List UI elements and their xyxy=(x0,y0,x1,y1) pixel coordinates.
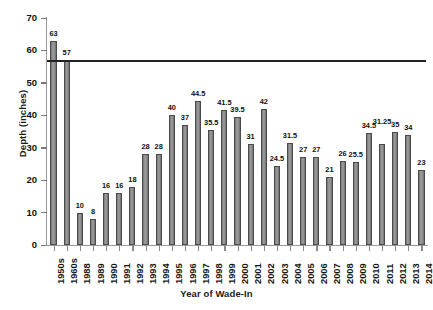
bar xyxy=(77,213,83,245)
bar-value-label: 40 xyxy=(158,104,186,111)
x-tick xyxy=(408,246,409,251)
x-tick xyxy=(119,246,120,251)
bar xyxy=(274,166,280,245)
bar xyxy=(248,144,254,245)
bar-value-label: 23 xyxy=(407,159,433,166)
bar xyxy=(340,161,346,245)
reference-line-57 xyxy=(47,60,426,62)
x-tick-label: 2008 xyxy=(346,263,355,284)
x-tick-label: 1989 xyxy=(97,263,106,284)
x-tick xyxy=(146,246,147,251)
x-tick-label: 2010 xyxy=(372,263,381,284)
x-tick xyxy=(264,246,265,251)
x-tick xyxy=(80,246,81,251)
x-tick-label: 1990 xyxy=(110,263,119,284)
y-tick-label: 40 xyxy=(0,110,37,120)
x-tick xyxy=(198,246,199,251)
bar-value-label: 44.5 xyxy=(184,90,212,97)
x-tick-label: 1999 xyxy=(228,263,237,284)
bar xyxy=(103,193,109,245)
bar xyxy=(261,109,267,245)
x-tick xyxy=(132,246,133,251)
y-tick-label: 70 xyxy=(0,13,37,23)
bar xyxy=(169,115,175,245)
x-tick xyxy=(238,246,239,251)
x-tick-label: 2011 xyxy=(386,264,395,284)
x-tick xyxy=(251,246,252,251)
x-tick-label: 2000 xyxy=(241,263,250,284)
x-axis-title: Year of Wade-In xyxy=(0,288,433,299)
x-tick xyxy=(356,246,357,251)
bar xyxy=(90,219,96,245)
bar xyxy=(116,193,122,245)
x-tick-label: 2002 xyxy=(267,263,276,284)
bar xyxy=(287,143,293,245)
x-tick-label: 1995 xyxy=(175,263,184,284)
x-tick-label: 2014 xyxy=(425,263,433,284)
x-tick-label: 2006 xyxy=(320,263,329,284)
x-tick xyxy=(290,246,291,251)
bar xyxy=(418,170,424,245)
x-tick-label: 2001 xyxy=(254,263,263,284)
bar-chart: Depth (inches) 010203040506070 635710816… xyxy=(0,0,433,310)
y-tick-label: 60 xyxy=(0,45,37,55)
bar-value-label: 63 xyxy=(40,30,68,37)
bar xyxy=(300,157,306,245)
bar xyxy=(379,144,385,245)
bar xyxy=(353,162,359,245)
x-tick-label: 2013 xyxy=(412,263,421,284)
x-tick-label: 2005 xyxy=(307,263,316,284)
x-tick-label: 2004 xyxy=(294,263,303,284)
x-tick xyxy=(316,246,317,251)
bar xyxy=(142,154,148,245)
y-tick-label: 10 xyxy=(0,208,37,218)
x-tick xyxy=(67,246,68,251)
x-tick xyxy=(421,246,422,251)
x-tick xyxy=(369,246,370,251)
x-tick-label: 1994 xyxy=(162,263,171,284)
x-tick xyxy=(93,246,94,251)
x-tick-label: 1950s xyxy=(57,258,66,284)
x-tick-label: 2007 xyxy=(333,263,342,284)
bar xyxy=(405,135,411,245)
bar xyxy=(182,125,188,245)
x-tick xyxy=(303,246,304,251)
plot-area: 63571081616182828403744.535.541.539.5314… xyxy=(47,18,428,245)
x-tick-label: 1991 xyxy=(123,263,132,284)
bar xyxy=(208,130,214,245)
x-tick xyxy=(329,246,330,251)
x-tick-label: 1998 xyxy=(215,263,224,284)
x-tick-label: 2009 xyxy=(359,263,368,284)
x-tick xyxy=(54,246,55,251)
bar xyxy=(366,133,372,245)
x-tick-label: 1988 xyxy=(83,263,92,284)
x-tick xyxy=(159,246,160,251)
x-tick xyxy=(277,246,278,251)
bar-value-label: 42 xyxy=(250,98,278,105)
x-tick-label: 1996 xyxy=(189,263,198,284)
x-tick-label: 1993 xyxy=(149,263,158,284)
x-tick xyxy=(106,246,107,251)
bar-value-label: 57 xyxy=(53,49,81,56)
x-tick xyxy=(211,246,212,251)
x-tick xyxy=(382,246,383,251)
x-tick xyxy=(172,246,173,251)
y-tick-label: 50 xyxy=(0,78,37,88)
bar xyxy=(221,110,227,245)
bar xyxy=(392,132,398,246)
bar xyxy=(156,154,162,245)
y-tick-label: 30 xyxy=(0,143,37,153)
bar xyxy=(50,41,56,245)
bar-value-label: 27 xyxy=(302,146,330,153)
x-tick-label: 2003 xyxy=(281,263,290,284)
bar-value-label: 39.5 xyxy=(224,106,252,113)
x-tick xyxy=(185,246,186,251)
x-tick-label: 1960s xyxy=(70,258,79,284)
bar xyxy=(64,60,70,245)
x-tick xyxy=(343,246,344,251)
x-tick-label: 1997 xyxy=(202,263,211,284)
bar xyxy=(326,177,332,245)
y-tick-label: 20 xyxy=(0,175,37,185)
x-tick-label: 1992 xyxy=(136,263,145,284)
x-tick xyxy=(395,246,396,251)
